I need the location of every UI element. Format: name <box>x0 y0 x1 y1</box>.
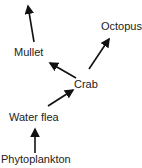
node-crab: Crab <box>74 78 98 91</box>
arrow-waterflea-to-crab <box>48 90 73 106</box>
node-mullet: Mullet <box>14 46 43 59</box>
node-water-flea: Water flea <box>9 111 59 124</box>
node-octopus: Octopus <box>101 20 142 33</box>
node-phytoplankton: Phytoplankton <box>1 153 71 166</box>
arrow-crab-to-octopus <box>89 39 109 69</box>
arrow-crab-to-mullet <box>50 63 76 78</box>
arrow-mullet-up <box>28 6 34 42</box>
